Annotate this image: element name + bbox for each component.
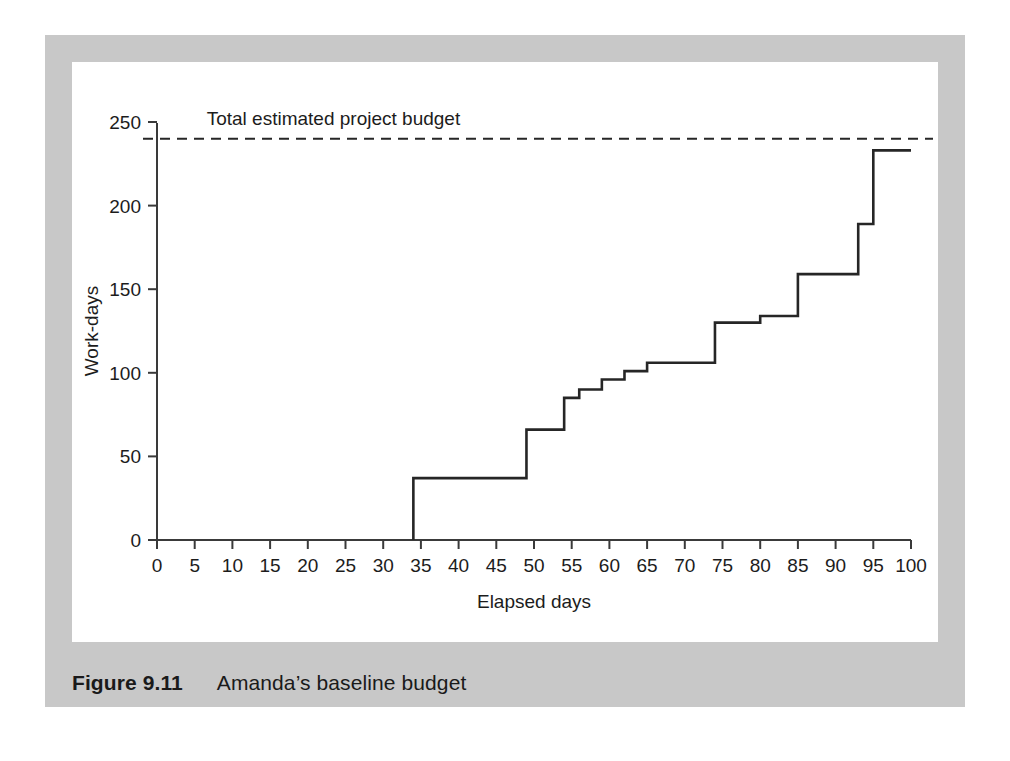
- y-tick-label: 0: [130, 530, 141, 551]
- x-axis-title: Elapsed days: [477, 591, 591, 612]
- step-chart: 0510152025303540455055606570758085909510…: [72, 62, 938, 642]
- chart-area: 0510152025303540455055606570758085909510…: [72, 62, 938, 642]
- x-tick-label: 20: [297, 555, 318, 576]
- x-tick-label: 80: [750, 555, 771, 576]
- y-axis-tick-labels: 050100150200250: [109, 112, 141, 551]
- y-axis-title: Work-days: [81, 286, 102, 376]
- x-tick-label: 60: [599, 555, 620, 576]
- x-tick-label: 95: [863, 555, 884, 576]
- x-tick-label: 15: [260, 555, 281, 576]
- budget-line-annotation: Total estimated project budget: [207, 108, 461, 129]
- chart-axes: [157, 123, 911, 540]
- figure-caption-label: Figure 9.11: [72, 671, 183, 695]
- x-tick-label: 70: [674, 555, 695, 576]
- y-tick-label: 100: [109, 363, 141, 384]
- x-tick-label: 75: [712, 555, 733, 576]
- x-tick-label: 45: [486, 555, 507, 576]
- x-tick-label: 40: [448, 555, 469, 576]
- x-tick-label: 35: [410, 555, 431, 576]
- x-tick-label: 50: [523, 555, 544, 576]
- figure-caption: Figure 9.11 Amanda’s baseline budget: [72, 663, 952, 703]
- page-root: 0510152025303540455055606570758085909510…: [0, 0, 1010, 761]
- y-tick-label: 200: [109, 196, 141, 217]
- x-tick-label: 5: [189, 555, 200, 576]
- x-axis-tick-labels: 0510152025303540455055606570758085909510…: [152, 555, 927, 576]
- x-tick-label: 0: [152, 555, 163, 576]
- y-tick-label: 150: [109, 279, 141, 300]
- x-tick-label: 55: [561, 555, 582, 576]
- y-tick-label: 50: [120, 446, 141, 467]
- x-tick-label: 90: [825, 555, 846, 576]
- y-tick-label: 250: [109, 112, 141, 133]
- figure-caption-text: Amanda’s baseline budget: [217, 671, 467, 695]
- plot-card: 0510152025303540455055606570758085909510…: [72, 62, 938, 642]
- x-tick-label: 85: [787, 555, 808, 576]
- x-tick-label: 10: [222, 555, 243, 576]
- x-tick-label: 100: [895, 555, 927, 576]
- y-axis-ticks: [148, 122, 157, 540]
- budget-step-series: [413, 150, 911, 540]
- x-tick-label: 65: [637, 555, 658, 576]
- x-tick-label: 30: [373, 555, 394, 576]
- figure-panel: 0510152025303540455055606570758085909510…: [45, 35, 965, 707]
- x-tick-label: 25: [335, 555, 356, 576]
- x-axis-ticks: [157, 540, 911, 549]
